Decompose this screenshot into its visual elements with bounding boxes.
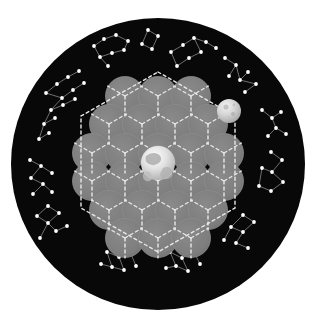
star-point [246,246,250,250]
star-point [266,134,270,138]
star-point [198,262,202,266]
star-point [57,211,61,215]
star-point [102,37,106,41]
star-point [99,262,103,266]
star-point [28,158,32,162]
star-point [156,34,160,38]
star-point [38,236,42,240]
star-point [82,81,86,85]
star-point [180,256,184,260]
star-point [66,75,70,79]
star-point [39,164,43,168]
star-point [186,269,190,273]
star-point [114,33,118,37]
star-point [223,56,227,60]
star-point [92,44,96,48]
star-point [279,110,283,114]
star-point [42,122,46,126]
star-point [60,96,64,100]
star-point [41,182,45,186]
moon-globe [217,99,241,123]
star-point [37,137,41,141]
star-point [29,176,33,180]
star-point [50,190,54,194]
star-point [169,50,173,54]
star-point [252,220,256,224]
star-point [274,126,278,130]
star-point [44,91,48,95]
star-point [50,171,54,175]
star-point [181,43,185,47]
star-point [238,78,242,82]
star-point [270,116,274,120]
star-point [77,69,81,73]
star-point [243,90,247,94]
star-point [55,82,59,86]
star-point [71,88,75,92]
star-point [234,241,238,245]
star-point [260,108,264,112]
star-point [110,51,114,55]
star-point [192,36,196,40]
star-point [246,70,250,74]
star-point [229,225,233,229]
star-point [280,158,284,162]
star-point [49,108,53,112]
star-point [110,265,114,269]
star-point [269,189,273,193]
star-point [227,74,231,78]
star-point [61,103,65,107]
star-point [281,180,285,184]
star-point [241,230,245,234]
star-point [222,238,226,242]
astronomy-diagram [0,0,319,327]
star-point [234,63,238,67]
star-point [31,192,35,196]
star-point [187,56,191,60]
star-point [241,213,245,217]
star-point [98,55,102,59]
star-point [140,42,144,46]
star-point [254,82,258,86]
star-point [146,28,150,32]
star-point [214,46,218,50]
star-point [73,97,77,101]
star-point [53,116,57,120]
star-point [122,48,126,52]
star-point [175,64,179,68]
star-point [257,184,261,188]
star-point [35,214,39,218]
star-point [46,204,50,208]
star-point [204,40,208,44]
star-point [260,166,264,170]
star-point [134,264,138,268]
star-point [269,150,273,154]
star-point [199,50,203,54]
star-point [47,131,51,135]
star-point [126,39,130,43]
star-point [105,250,109,254]
star-point [65,224,69,228]
figure-canvas [0,0,319,327]
star-point [122,268,126,272]
star-point [150,47,154,51]
star-point [106,64,110,68]
star-point [54,229,58,233]
star-point [270,170,274,174]
star-point [284,132,288,136]
star-point [46,221,50,225]
star-point [164,266,168,270]
star-point [174,264,178,268]
earth-globe [141,146,175,181]
